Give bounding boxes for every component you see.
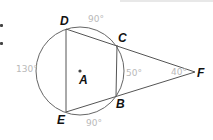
arc-cb-measure: 50° — [126, 68, 142, 78]
angle-f-measure: 40° — [171, 67, 187, 77]
label-c: C — [118, 31, 127, 45]
chord-cb — [116, 45, 117, 96]
label-f: F — [197, 66, 205, 80]
arc-de-measure: 130° — [16, 64, 38, 74]
label-a: A — [78, 73, 88, 87]
label-b: B — [116, 97, 125, 111]
label-d: D — [60, 14, 69, 28]
label-e: E — [57, 113, 66, 127]
arc-eb-measure: 90° — [86, 118, 102, 128]
secant-df — [66, 29, 195, 72]
arc-dc-measure: 90° — [88, 14, 104, 24]
geometry-diagram: D C B E F A 90° 130° 50° 90° 40° — [0, 0, 213, 140]
